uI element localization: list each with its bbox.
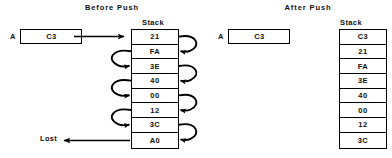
stack-cell: 00 xyxy=(132,89,178,104)
stack-cell: FA xyxy=(132,45,178,60)
register-a-before-name: A xyxy=(10,32,15,41)
shift-loop-left xyxy=(112,80,131,96)
stack-cell: 3C xyxy=(340,133,386,148)
stack-push-diagram: Before Push After Push Stack Stack A C3 … xyxy=(0,0,392,158)
shift-loop-left xyxy=(112,51,131,67)
shift-loop-right xyxy=(179,36,196,52)
shift-loop-left xyxy=(112,109,131,125)
stack-cell: 3E xyxy=(340,74,386,89)
register-a-after-name: A xyxy=(218,32,223,41)
stack-label-after: Stack xyxy=(316,18,386,27)
register-a-before: A C3 xyxy=(10,29,82,44)
stack-cell: 21 xyxy=(132,30,178,45)
stack-cell: A0 xyxy=(132,133,178,148)
before-push-title: Before Push xyxy=(62,3,162,12)
stack-cell: 3C xyxy=(132,118,178,133)
shift-loop-right xyxy=(179,124,196,140)
register-a-after-value: C3 xyxy=(228,29,290,44)
lost-label: Lost xyxy=(40,134,57,143)
stack-cell: 40 xyxy=(132,74,178,89)
stack-cell: 00 xyxy=(340,103,386,118)
stack-cell: 21 xyxy=(340,45,386,60)
stack-cell: C3 xyxy=(340,30,386,45)
stack-cell: 12 xyxy=(340,118,386,133)
shift-loop-left-group xyxy=(112,51,131,126)
register-a-after: A C3 xyxy=(218,29,290,44)
stack-cell: 40 xyxy=(340,89,386,104)
stack-cell: FA xyxy=(340,59,386,74)
after-push-title: After Push xyxy=(258,3,358,12)
stack-after: C3 21 FA 3E 40 00 12 3C xyxy=(339,29,387,149)
shift-loop-right xyxy=(179,65,196,81)
stack-cell: 3E xyxy=(132,59,178,74)
shift-loop-right xyxy=(179,95,196,111)
stack-label-before: Stack xyxy=(118,18,188,27)
register-a-before-value: C3 xyxy=(20,29,82,44)
shift-loop-right-group xyxy=(179,36,196,140)
stack-cell: 12 xyxy=(132,103,178,118)
stack-before: 21 FA 3E 40 00 12 3C A0 xyxy=(131,29,179,149)
